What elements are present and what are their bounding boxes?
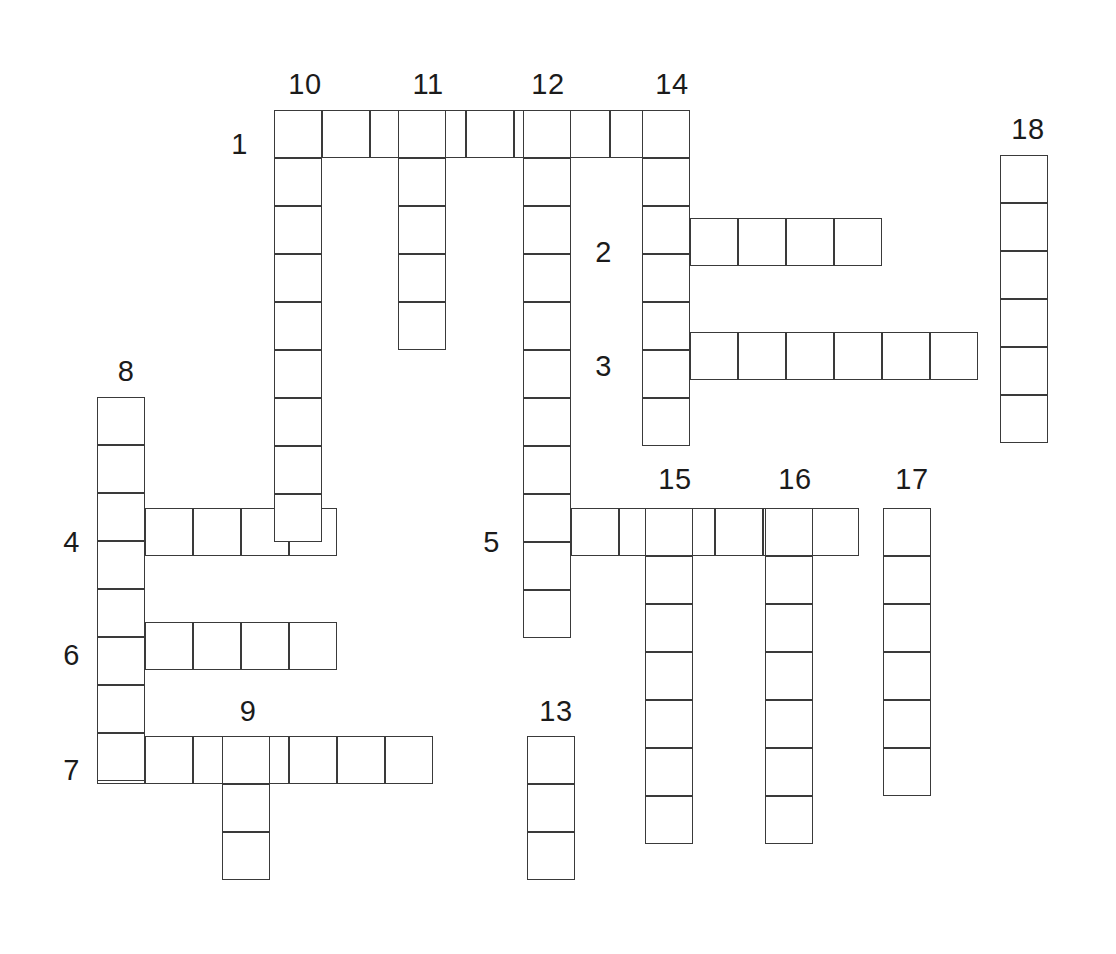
grid-cell[interactable] — [645, 652, 693, 700]
grid-cell[interactable] — [690, 218, 738, 266]
clue-number-17: 17 — [895, 465, 928, 494]
grid-cell[interactable] — [527, 736, 575, 784]
grid-cell[interactable] — [1000, 299, 1048, 347]
grid-cell[interactable] — [523, 494, 571, 542]
grid-cell[interactable] — [765, 748, 813, 796]
grid-cell[interactable] — [645, 700, 693, 748]
grid-cell[interactable] — [274, 302, 322, 350]
grid-cell[interactable] — [834, 218, 882, 266]
grid-cell[interactable] — [193, 508, 241, 556]
grid-cell[interactable] — [523, 158, 571, 206]
grid-cell[interactable] — [241, 622, 289, 670]
clue-number-9: 9 — [240, 697, 257, 726]
grid-cell[interactable] — [274, 350, 322, 398]
grid-cell[interactable] — [97, 733, 145, 781]
grid-cell[interactable] — [765, 700, 813, 748]
grid-cell[interactable] — [145, 622, 193, 670]
grid-cell[interactable] — [1000, 347, 1048, 395]
grid-cell[interactable] — [645, 556, 693, 604]
grid-cell[interactable] — [527, 784, 575, 832]
grid-cell[interactable] — [642, 110, 690, 158]
grid-cell[interactable] — [883, 508, 931, 556]
grid-cell[interactable] — [398, 254, 446, 302]
grid-cell[interactable] — [645, 796, 693, 844]
grid-cell[interactable] — [883, 556, 931, 604]
grid-cell[interactable] — [883, 700, 931, 748]
grid-cell[interactable] — [642, 206, 690, 254]
grid-cell[interactable] — [193, 622, 241, 670]
grid-cell[interactable] — [1000, 155, 1048, 203]
grid-cell[interactable] — [645, 748, 693, 796]
grid-cell[interactable] — [398, 110, 446, 158]
grid-cell[interactable] — [715, 508, 763, 556]
grid-cell[interactable] — [97, 493, 145, 541]
grid-cell[interactable] — [97, 541, 145, 589]
grid-cell[interactable] — [738, 218, 786, 266]
grid-cell[interactable] — [523, 398, 571, 446]
grid-cell[interactable] — [883, 748, 931, 796]
grid-cell[interactable] — [97, 397, 145, 445]
grid-cell[interactable] — [642, 350, 690, 398]
grid-cell[interactable] — [523, 590, 571, 638]
grid-cell[interactable] — [738, 332, 786, 380]
grid-cell[interactable] — [930, 332, 978, 380]
grid-cell[interactable] — [523, 542, 571, 590]
grid-cell[interactable] — [97, 589, 145, 637]
grid-cell[interactable] — [466, 110, 514, 158]
grid-cell[interactable] — [523, 254, 571, 302]
grid-cell[interactable] — [222, 736, 270, 784]
grid-cell[interactable] — [645, 604, 693, 652]
grid-cell[interactable] — [97, 685, 145, 733]
grid-cell[interactable] — [1000, 395, 1048, 443]
grid-cell[interactable] — [523, 110, 571, 158]
grid-cell[interactable] — [642, 398, 690, 446]
grid-cell[interactable] — [882, 332, 930, 380]
grid-cell[interactable] — [398, 158, 446, 206]
grid-cell[interactable] — [337, 736, 385, 784]
grid-cell[interactable] — [274, 494, 322, 542]
grid-cell[interactable] — [398, 302, 446, 350]
grid-cell[interactable] — [385, 736, 433, 784]
grid-cell[interactable] — [765, 604, 813, 652]
grid-cell[interactable] — [398, 206, 446, 254]
grid-cell[interactable] — [811, 508, 859, 556]
grid-cell[interactable] — [642, 302, 690, 350]
grid-cell[interactable] — [145, 508, 193, 556]
grid-cell[interactable] — [289, 622, 337, 670]
grid-cell[interactable] — [765, 652, 813, 700]
grid-cell[interactable] — [274, 254, 322, 302]
grid-cell[interactable] — [1000, 251, 1048, 299]
grid-cell[interactable] — [274, 110, 322, 158]
grid-cell[interactable] — [523, 302, 571, 350]
grid-cell[interactable] — [786, 218, 834, 266]
grid-cell[interactable] — [527, 832, 575, 880]
grid-cell[interactable] — [642, 254, 690, 302]
grid-cell[interactable] — [765, 508, 813, 556]
grid-cell[interactable] — [274, 206, 322, 254]
grid-cell[interactable] — [786, 332, 834, 380]
grid-cell[interactable] — [642, 158, 690, 206]
grid-cell[interactable] — [222, 832, 270, 880]
grid-cell[interactable] — [523, 206, 571, 254]
grid-cell[interactable] — [289, 736, 337, 784]
grid-cell[interactable] — [274, 446, 322, 494]
grid-cell[interactable] — [322, 110, 370, 158]
clue-number-2: 2 — [595, 238, 612, 267]
grid-cell[interactable] — [222, 784, 270, 832]
grid-cell[interactable] — [97, 445, 145, 493]
grid-cell[interactable] — [883, 604, 931, 652]
grid-cell[interactable] — [690, 332, 738, 380]
grid-cell[interactable] — [145, 736, 193, 784]
grid-cell[interactable] — [274, 158, 322, 206]
grid-cell[interactable] — [274, 398, 322, 446]
grid-cell[interactable] — [571, 508, 619, 556]
grid-cell[interactable] — [1000, 203, 1048, 251]
grid-cell[interactable] — [645, 508, 693, 556]
grid-cell[interactable] — [834, 332, 882, 380]
grid-cell[interactable] — [883, 652, 931, 700]
grid-cell[interactable] — [523, 446, 571, 494]
grid-cell[interactable] — [97, 637, 145, 685]
grid-cell[interactable] — [523, 350, 571, 398]
grid-cell[interactable] — [765, 556, 813, 604]
grid-cell[interactable] — [765, 796, 813, 844]
